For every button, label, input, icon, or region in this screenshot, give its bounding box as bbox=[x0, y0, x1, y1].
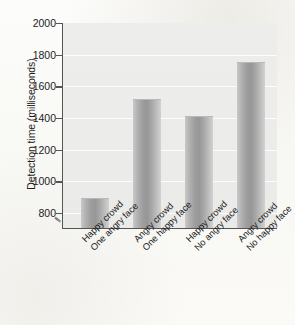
y-axis-tick-label: 1000 bbox=[8, 175, 56, 187]
y-axis-tick-label: 1200 bbox=[8, 144, 56, 156]
y-axis-tick bbox=[56, 55, 62, 56]
chart-page: Detection time (milliseconds) // 8001000… bbox=[0, 0, 295, 325]
y-axis-tick-label: 1800 bbox=[8, 49, 56, 61]
y-axis-tick bbox=[56, 181, 62, 182]
y-axis-tick bbox=[56, 86, 62, 87]
y-axis-tick bbox=[56, 150, 62, 151]
y-axis-tick bbox=[56, 213, 62, 214]
gridline bbox=[63, 55, 277, 56]
y-axis-tick-label: 2000 bbox=[8, 17, 56, 29]
y-axis-tick-label: 1600 bbox=[8, 80, 56, 92]
y-axis-tick-label: 1400 bbox=[8, 112, 56, 124]
bar bbox=[237, 62, 265, 228]
y-axis-tick bbox=[56, 23, 62, 24]
y-axis-tick-label: 800 bbox=[8, 207, 56, 219]
y-axis-tick bbox=[56, 118, 62, 119]
